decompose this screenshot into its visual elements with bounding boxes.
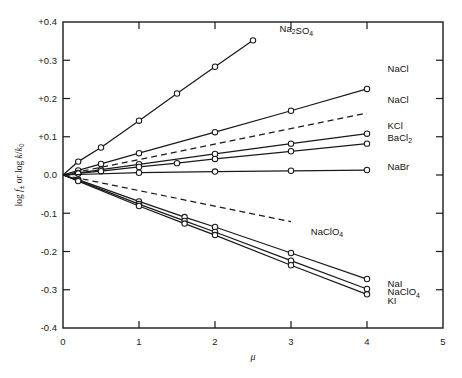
series-label-NaClO4-dashed: NaClO4 xyxy=(311,226,344,238)
data-point xyxy=(288,250,293,255)
series-NaCl-dashed xyxy=(63,113,367,175)
y-tick-label: +0.1 xyxy=(38,131,57,142)
data-point xyxy=(288,108,293,113)
y-title-zero: 0 xyxy=(18,143,25,147)
data-point xyxy=(212,129,217,134)
series-label-Na2SO4: Na2SO4 xyxy=(280,23,314,37)
y-tick-label: -0.1 xyxy=(41,208,57,219)
series-label-BaCl2: BaCl2 xyxy=(388,132,413,144)
y-tick-label: +0.3 xyxy=(38,55,57,66)
data-point xyxy=(136,164,141,169)
figure-container: 012345 +0.4+0.3+0.2+0.10.0-0.1-0.2-0.3-0… xyxy=(0,0,462,378)
data-point xyxy=(288,168,293,173)
data-point xyxy=(288,149,293,154)
x-tick-label: 4 xyxy=(364,336,369,347)
x-tick-label: 5 xyxy=(440,336,445,347)
data-point xyxy=(76,178,81,183)
y-axis-title: log f± or log k/k0 xyxy=(14,143,25,206)
data-point xyxy=(212,232,217,237)
data-point xyxy=(98,145,103,150)
data-point xyxy=(136,118,141,123)
y-tick-label: +0.2 xyxy=(38,93,57,104)
data-point xyxy=(174,160,179,165)
y-title-log1: log xyxy=(14,192,24,207)
y-tick-label: 0.0 xyxy=(44,169,57,180)
series-label-NaCl-solid: NaCl xyxy=(388,63,409,74)
data-point xyxy=(288,141,293,146)
series-label-KI: KI xyxy=(388,295,397,306)
y-axis-title-text: log f± or log k/k0 xyxy=(14,143,25,206)
data-point xyxy=(136,203,141,208)
plot-border xyxy=(63,22,443,328)
data-point xyxy=(364,86,369,91)
x-tick-label: 1 xyxy=(136,336,141,347)
data-point xyxy=(212,64,217,69)
data-point xyxy=(364,286,369,291)
x-axis-title-text: μ xyxy=(249,351,255,362)
series-Na2SO4 xyxy=(63,38,256,175)
data-point xyxy=(364,292,369,297)
x-tick-label: 2 xyxy=(212,336,217,347)
y-tick-label: +0.4 xyxy=(38,16,57,27)
y-tick-label: -0.3 xyxy=(41,284,57,295)
data-point xyxy=(364,131,369,136)
y-tick-label: -0.2 xyxy=(41,246,57,257)
series-label-NaCl-dashed: NaCl xyxy=(388,94,409,105)
series-line xyxy=(63,40,253,175)
data-point xyxy=(98,168,103,173)
data-point xyxy=(76,171,81,176)
data-point xyxy=(136,150,141,155)
data-point xyxy=(288,263,293,268)
y-tick-label: -0.4 xyxy=(41,322,57,333)
series-label-KCl: KCl xyxy=(388,120,403,131)
x-axis-title: μ xyxy=(249,351,255,362)
series-label-NaBr: NaBr xyxy=(388,161,410,172)
x-tick-label: 0 xyxy=(60,336,65,347)
data-point xyxy=(212,156,217,161)
data-point xyxy=(364,167,369,172)
data-point xyxy=(136,170,141,175)
data-point xyxy=(250,38,255,43)
x-tick-label: 3 xyxy=(288,336,293,347)
data-series-group xyxy=(63,38,370,297)
chart-canvas: 012345 +0.4+0.3+0.2+0.10.0-0.1-0.2-0.3-0… xyxy=(0,0,462,378)
data-point xyxy=(364,141,369,146)
data-point xyxy=(212,169,217,174)
series-line xyxy=(63,113,367,175)
y-axis-ticks: +0.4+0.3+0.2+0.10.0-0.1-0.2-0.3-0.4 xyxy=(38,16,443,333)
data-point xyxy=(76,159,81,164)
data-point xyxy=(98,161,103,166)
data-point xyxy=(174,91,179,96)
data-point xyxy=(182,221,187,226)
plot-frame xyxy=(63,22,443,328)
data-point xyxy=(364,276,369,281)
